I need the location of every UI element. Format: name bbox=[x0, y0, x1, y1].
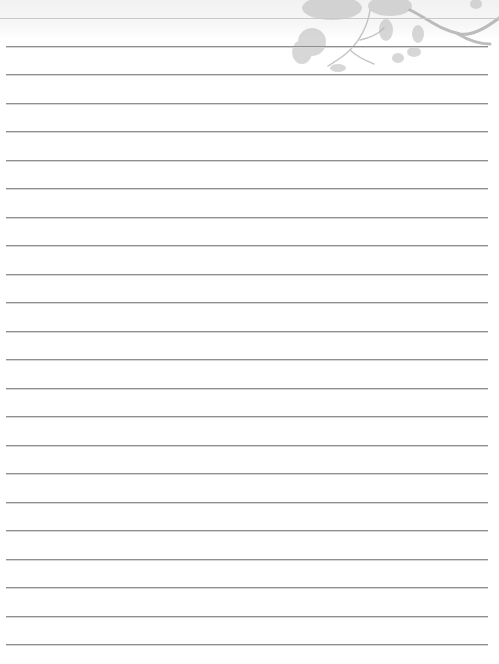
ruled-line bbox=[6, 559, 488, 560]
ruled-line bbox=[6, 616, 488, 617]
ruled-line bbox=[6, 188, 488, 189]
ruled-line bbox=[6, 644, 488, 645]
ruled-line-top bbox=[0, 18, 499, 19]
ruled-line bbox=[6, 331, 488, 332]
ruled-line bbox=[6, 416, 488, 417]
ruled-line bbox=[6, 160, 488, 161]
ruled-line bbox=[6, 245, 488, 246]
ruled-line bbox=[6, 274, 488, 275]
ruled-line bbox=[6, 445, 488, 446]
ruled-line bbox=[6, 502, 488, 503]
ruled-line bbox=[6, 587, 488, 588]
ruled-line bbox=[6, 74, 488, 75]
ruled-line bbox=[6, 530, 488, 531]
ruled-line bbox=[6, 217, 488, 218]
lined-paper bbox=[0, 0, 499, 664]
ruled-line bbox=[6, 359, 488, 360]
ruled-line bbox=[6, 473, 488, 474]
ruled-line bbox=[6, 388, 488, 389]
ruled-line bbox=[6, 302, 488, 303]
plum-blossom-branch-icon bbox=[290, 0, 499, 80]
ruled-line bbox=[6, 46, 488, 47]
ruled-line bbox=[6, 131, 488, 132]
ruled-line bbox=[6, 103, 488, 104]
